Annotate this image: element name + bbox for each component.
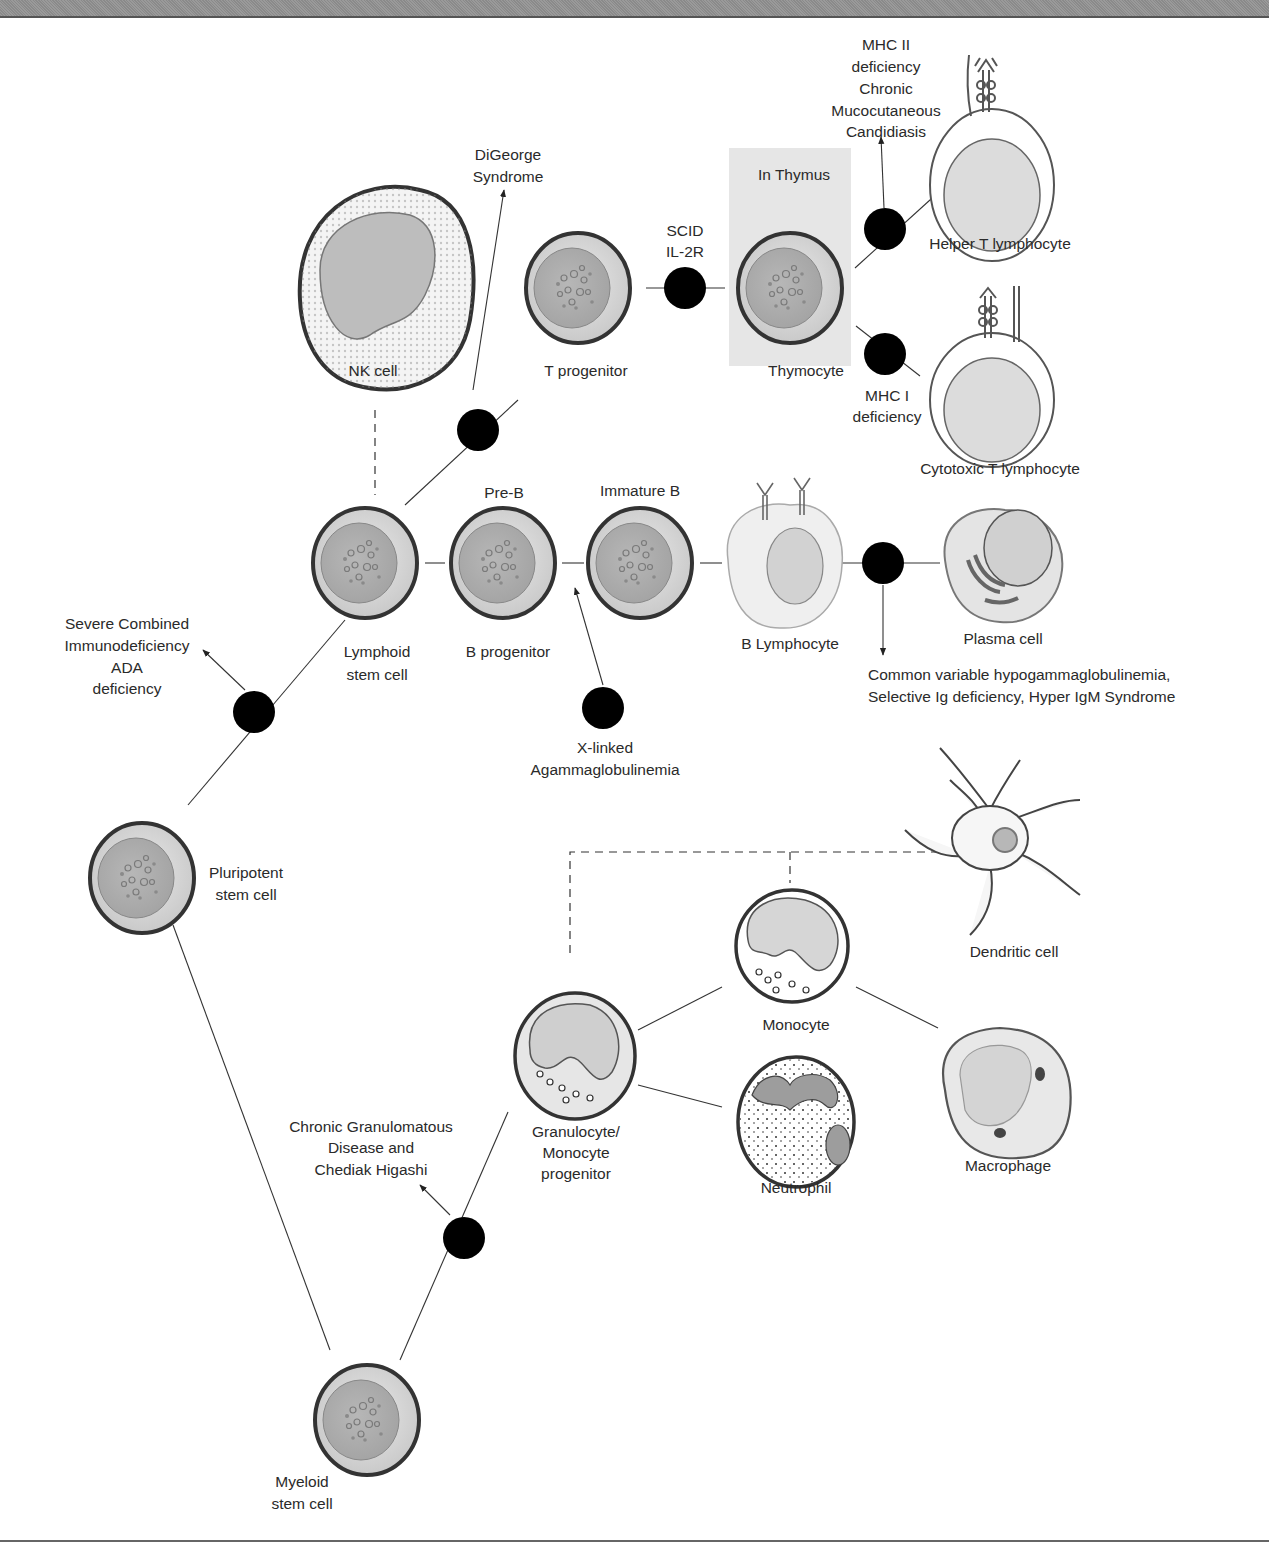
neutrophil-label: Neutrophil	[761, 1179, 832, 1196]
neutrophil-cell-icon	[738, 1057, 854, 1187]
gm-progenitor-cell-icon	[515, 993, 635, 1119]
scid-ada-label-1: Severe Combined	[65, 615, 189, 632]
macrophage-label: Macrophage	[965, 1157, 1051, 1174]
helper-t-label: Helper T lymphocyte	[929, 235, 1071, 252]
gm-progenitor-label-2: Monocyte	[542, 1144, 609, 1161]
scid-ada-label-2: Immunodeficiency	[65, 637, 190, 654]
scid-il2r-label-1: SCID	[666, 222, 703, 239]
macrophage-cell-icon	[943, 1028, 1071, 1158]
t-progenitor-label: T progenitor	[544, 362, 627, 379]
myeloid-stem-cell-icon	[315, 1365, 419, 1475]
thymocyte-cell-icon	[738, 233, 842, 343]
block-scid-il2r-icon	[664, 267, 706, 309]
immature-b-cell-icon	[588, 508, 692, 618]
dendritic-cell-icon	[905, 748, 1080, 935]
mhc1-label-2: deficiency	[853, 408, 922, 425]
thymus-label: In Thymus	[758, 166, 830, 183]
nk-cell-icon	[300, 187, 474, 389]
mhc1-label-1: MHC I	[865, 387, 909, 404]
block-mhc1-icon	[864, 333, 906, 375]
monocyte-label: Monocyte	[762, 1016, 829, 1033]
cytotoxic-t-cell-icon	[930, 286, 1054, 467]
cytotoxic-t-label: Cytotoxic T lymphocyte	[920, 460, 1080, 477]
xla-label-1: X-linked	[577, 739, 633, 756]
nk-cell-label: NK cell	[348, 362, 397, 379]
lymphoid-stem-label-2: stem cell	[346, 666, 407, 683]
cgd-label-1: Chronic Granulomatous	[289, 1118, 453, 1135]
scid-il2r-label-2: IL-2R	[666, 243, 704, 260]
thymocyte-label: Thymocyte	[768, 362, 844, 379]
monocyte-cell-icon	[736, 890, 848, 1002]
t-progenitor-cell-icon	[526, 233, 630, 343]
lymphoid-stem-label-1: Lymphoid	[344, 643, 411, 660]
pluripotent-stem-cell-icon	[90, 823, 194, 933]
cgd-label-2: Disease and	[328, 1139, 414, 1156]
mhc2-label-1: MHC II	[862, 36, 910, 53]
pre-b-cell-icon	[451, 508, 555, 618]
block-cgd-icon	[443, 1217, 485, 1259]
immature-b-label: Immature B	[600, 482, 680, 499]
mhc2-label-5: Candidiasis	[846, 123, 926, 140]
digeorge-label-1: DiGeorge	[475, 146, 541, 163]
cvid-label-1: Common variable hypogammaglobulinemia,	[868, 666, 1170, 683]
myeloid-stem-label-2: stem cell	[271, 1495, 332, 1512]
plasma-cell-label: Plasma cell	[963, 630, 1042, 647]
lymphoid-stem-cell-icon	[313, 508, 417, 618]
mhc2-label-2: deficiency	[852, 58, 921, 75]
b-progenitor-label: B progenitor	[466, 643, 550, 660]
helper-t-cell-icon	[930, 55, 1054, 261]
footer-rule	[0, 1540, 1269, 1542]
scid-ada-label-4: deficiency	[93, 680, 162, 697]
xla-label-2: Agammaglobulinemia	[530, 761, 679, 778]
b-lymphocyte-label: B Lymphocyte	[741, 635, 839, 652]
digeorge-label-2: Syndrome	[473, 168, 544, 185]
pluripotent-label-2: stem cell	[215, 886, 276, 903]
block-xla-icon	[582, 687, 624, 729]
mhc2-label-3: Chronic	[859, 80, 913, 97]
cgd-label-3: Chediak Higashi	[315, 1161, 428, 1178]
immunodeficiency-diagram: In Thymus	[0, 0, 1269, 1561]
plasma-cell-icon	[945, 509, 1063, 622]
block-scid-ada-icon	[233, 691, 275, 733]
myeloid-stem-label-1: Myeloid	[275, 1473, 328, 1490]
block-digeorge-icon	[457, 409, 499, 451]
gm-progenitor-label-1: Granulocyte/	[532, 1123, 621, 1140]
block-mhc2-icon	[864, 208, 906, 250]
gm-progenitor-label-3: progenitor	[541, 1165, 611, 1182]
b-lymphocyte-cell-icon	[727, 478, 842, 628]
dendritic-label: Dendritic cell	[970, 943, 1059, 960]
cvid-label-2: Selective Ig deficiency, Hyper IgM Syndr…	[868, 688, 1175, 705]
block-cvid-icon	[862, 542, 904, 584]
pluripotent-label-1: Pluripotent	[209, 864, 284, 881]
pre-b-label: Pre-B	[484, 484, 524, 501]
mhc2-label-4: Mucocutaneous	[831, 102, 941, 119]
scid-ada-label-3: ADA	[111, 659, 144, 676]
